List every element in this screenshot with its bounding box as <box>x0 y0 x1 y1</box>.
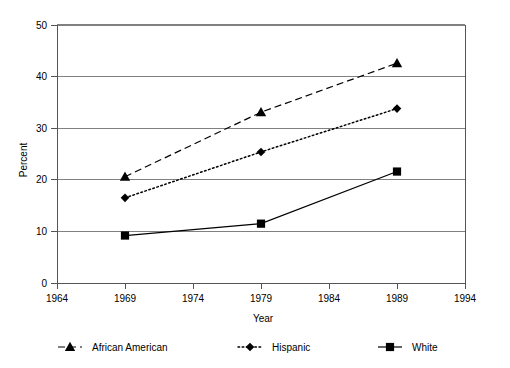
chart-canvas: 01020304050 1964196919741979198419891994… <box>0 0 510 368</box>
triangle-marker <box>256 107 266 116</box>
line-chart: 01020304050 1964196919741979198419891994… <box>0 0 510 368</box>
y-tick-label: 20 <box>36 174 48 185</box>
y-tick-label: 50 <box>36 20 48 31</box>
square-marker <box>257 220 265 228</box>
y-axis-title: Percent <box>18 143 29 178</box>
legend-item-white[interactable]: White <box>378 342 438 353</box>
square-marker <box>386 343 394 351</box>
series-hispanic <box>121 104 402 202</box>
legend-label: African American <box>92 342 168 353</box>
legend-label: White <box>412 342 438 353</box>
series-line <box>125 63 397 177</box>
legend-label: Hispanic <box>272 342 310 353</box>
x-tick-label: 1979 <box>250 293 273 304</box>
series-white <box>121 167 401 239</box>
diamond-marker <box>257 148 266 157</box>
diamond-marker <box>246 343 255 352</box>
chart-legend: African AmericanHispanicWhite <box>58 342 438 353</box>
x-tick-label: 1989 <box>386 293 409 304</box>
x-tick-label: 1994 <box>454 293 477 304</box>
y-axis-tick-labels: 01020304050 <box>36 20 48 289</box>
triangle-marker <box>392 58 402 67</box>
y-gridlines <box>57 25 465 231</box>
x-tick-label: 1964 <box>46 293 69 304</box>
data-series-group <box>120 58 402 240</box>
square-marker <box>121 231 129 239</box>
square-marker <box>393 167 401 175</box>
legend-item-hispanic[interactable]: Hispanic <box>238 342 310 353</box>
x-tick-label: 1974 <box>182 293 205 304</box>
x-tick-label: 1969 <box>114 293 137 304</box>
y-axis-ticks <box>51 25 57 283</box>
legend-item-african-american[interactable]: African American <box>58 342 168 353</box>
y-tick-label: 0 <box>41 278 47 289</box>
x-tick-label: 1984 <box>318 293 341 304</box>
y-tick-label: 40 <box>36 71 48 82</box>
x-axis-tick-labels: 1964196919741979198419891994 <box>46 293 477 304</box>
diamond-marker <box>393 104 402 113</box>
triangle-marker <box>120 172 130 181</box>
x-axis-title: Year <box>253 313 274 324</box>
y-tick-label: 10 <box>36 226 48 237</box>
diamond-marker <box>121 194 130 203</box>
x-axis-ticks <box>57 283 465 289</box>
y-tick-label: 30 <box>36 123 48 134</box>
